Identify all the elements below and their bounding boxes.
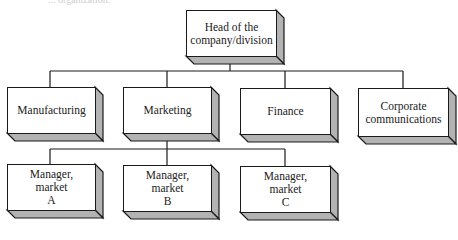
node-label-line: market [152,182,184,195]
node-label-line: market [270,183,302,196]
node-label-line: Manager, [264,170,307,183]
node-label-line: B [164,195,172,208]
node-label-line: market [36,181,68,194]
node-label-line: Manufacturing [17,104,85,117]
node-label-line: Finance [267,105,303,118]
node-label-line: A [47,194,55,207]
node-label-line: Head of the [205,21,259,34]
node-label-line: Corporate [381,100,427,113]
node-label-line: Manager, [30,168,73,181]
node-label-line: Manager, [146,169,189,182]
node-label-line: company/division [190,34,272,47]
node-label-line: communications [365,113,441,126]
node-label-line: Marketing [144,104,192,117]
node-label-line: C [282,196,290,209]
